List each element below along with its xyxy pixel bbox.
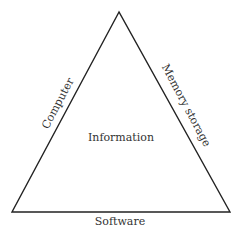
- center-label: Information: [88, 131, 154, 144]
- bottom-edge-label: Software: [95, 215, 145, 228]
- diagram-svg: Information Computer Memory storage Soft…: [0, 0, 239, 229]
- right-edge-label: Memory storage: [159, 62, 214, 149]
- left-edge-label: Computer: [39, 75, 77, 131]
- triangle-diagram: Information Computer Memory storage Soft…: [0, 0, 239, 229]
